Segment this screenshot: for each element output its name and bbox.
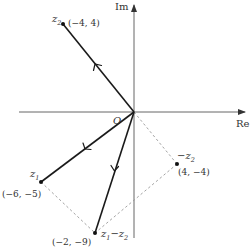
origin-label: O (113, 115, 121, 126)
point-neg-z2 (175, 162, 179, 166)
im-axis-label: Im (115, 1, 129, 12)
point-z2 (61, 22, 65, 26)
z1-minus-z2-label: z1−z2 (100, 228, 128, 242)
dashed-o-to-neg-z2 (134, 112, 177, 164)
dashed-negz2-to-z1mz2 (95, 164, 177, 233)
arrow-icon-z1mz2 (111, 166, 119, 172)
vector-z2 (63, 24, 134, 112)
neg-z2-label: −z2 (177, 150, 195, 164)
vectors (41, 24, 134, 233)
vector-z1-minus-z2 (95, 112, 134, 233)
z2-label: z2 (51, 13, 61, 27)
z1-label: z1 (29, 168, 39, 182)
points (39, 22, 179, 235)
re-axis-label: Re (236, 118, 250, 129)
point-z1 (39, 180, 43, 184)
z1-minus-z2-coord: (−2, −9) (52, 237, 91, 247)
neg-z2-coord: (4, −4) (178, 167, 210, 177)
dashed-z1-to-z1mz2 (41, 182, 95, 233)
complex-plane-diagram: Im Re O z2 (−4, 4) z1 (−6, −5) z1−z2 (−2… (0, 0, 252, 249)
z1-coord: (−6, −5) (2, 189, 41, 199)
z2-coord: (−4, 4) (68, 18, 100, 28)
point-z1-minus-z2 (93, 231, 97, 235)
